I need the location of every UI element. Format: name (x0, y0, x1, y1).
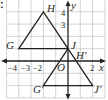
origin-label: O (57, 61, 65, 73)
x-tick-2: 2 (90, 63, 94, 73)
x-tick-neg4: −4 (8, 63, 18, 73)
vertex-label-g-prime: G′ (33, 83, 44, 95)
y-tick-3: 3 (61, 20, 65, 30)
x-tick-neg2: −2 (33, 63, 42, 73)
y-tick-4: 4 (61, 8, 66, 18)
y-axis-label: y (70, 0, 76, 11)
vertex-label-g: G (6, 39, 14, 51)
y-axis-up-arrow-icon (66, 1, 71, 7)
x-axis-label: x (98, 61, 104, 73)
vertex-label-h: H (46, 2, 56, 14)
x-tick-neg3: −3 (21, 63, 30, 73)
y-axis-down-arrow-icon (66, 94, 71, 100)
vertex-label-h-prime: H′ (75, 49, 87, 61)
coordinate-plane: y x O −4 −3 −2 2 4 3 H G J H′ G′ J′ (0, 0, 108, 100)
vertex-label-j-prime: J′ (94, 83, 102, 95)
x-axis-left-arrow-icon (1, 59, 7, 64)
axes (1, 1, 106, 100)
